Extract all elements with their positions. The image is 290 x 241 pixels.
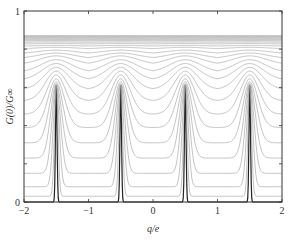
curve-family [24, 45, 282, 46]
curve-family [24, 85, 282, 174]
x-tick-label: −1 [83, 205, 94, 216]
y-tick-label: 0 [15, 197, 20, 208]
x-axis-label: q/e [147, 223, 160, 234]
x-tick-label: 1 [215, 205, 220, 216]
x-tick-label: 0 [151, 205, 156, 216]
curve-family [24, 75, 282, 114]
x-tick-label: −2 [19, 205, 30, 216]
y-tick-label: 1 [15, 6, 20, 17]
y-axis-label: G(0)/G∞ [4, 88, 16, 124]
curve-family [24, 53, 282, 58]
x-tick-label: 2 [280, 205, 285, 216]
chart: −2−1012 01 q/e G(0)/G∞ [0, 0, 290, 241]
curve-family [24, 50, 282, 53]
curve-family [24, 56, 282, 63]
curve-family [24, 47, 282, 48]
curve-family [24, 71, 282, 100]
conductance-curves [24, 36, 282, 202]
